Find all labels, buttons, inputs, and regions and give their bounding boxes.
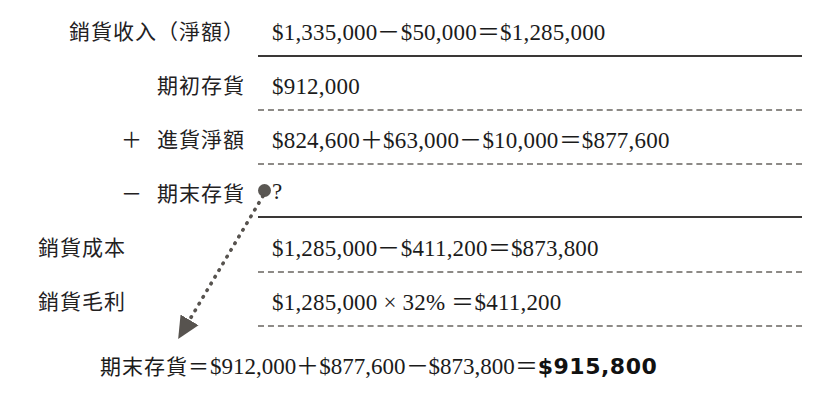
minus-operator-icon: － [121, 184, 143, 205]
summary-label: 期末存貨 [100, 355, 188, 379]
row-value-ending-inventory-unknown: ? [272, 180, 282, 203]
row-label-sales-revenue-net: 銷貨收入（淨額） [69, 22, 245, 43]
row-value-sales-revenue-net: $1,335,000－$50,000＝$1,285,000 [272, 21, 606, 44]
rule-below-gross-profit [258, 325, 802, 327]
row-value-net-purchases: $824,600＋$63,000－$10,000＝$877,600 [272, 129, 670, 152]
row-label-net-purchases: ＋進貨淨額 [121, 130, 245, 151]
row-label-beginning-inventory: 期初存貨 [157, 76, 245, 97]
row-label-text: 銷貨收入（淨額） [69, 20, 245, 44]
rule-below-sales-revenue [258, 55, 802, 57]
row-label-text: 期初存貨 [157, 74, 245, 98]
row-value-gross-profit: $1,285,000 × 32% ＝$411,200 [272, 291, 561, 314]
rule-below-cost-of-goods-sold [258, 271, 802, 273]
row-value-cost-of-goods-sold: $1,285,000－$411,200＝$873,800 [272, 237, 599, 260]
row-label-text: 進貨淨額 [157, 128, 245, 152]
row-label-text: 銷貨成本 [38, 236, 126, 260]
summary-answer-value: $915,800 [538, 354, 658, 379]
row-label-text: 銷貨毛利 [38, 290, 126, 314]
row-label-ending-inventory: －期末存貨 [121, 184, 245, 205]
rule-below-beginning-inventory [258, 109, 802, 111]
rule-below-net-purchases [258, 163, 802, 165]
row-label-text: 期末存貨 [157, 182, 245, 206]
row-value-beginning-inventory: $912,000 [272, 75, 360, 98]
plus-operator-icon: ＋ [121, 130, 143, 151]
summary-expression: $912,000＋$877,600－$873,800＝ [210, 354, 538, 379]
row-label-gross-profit: 銷貨毛利 [38, 292, 126, 313]
summary-equals-sign: ＝ [188, 355, 210, 379]
unknown-value-marker-dot [258, 184, 271, 197]
row-label-cost-of-goods-sold: 銷貨成本 [38, 238, 126, 259]
summary-equation: 期末存貨＝$912,000＋$877,600－$873,800＝$915,800 [100, 355, 657, 378]
rule-below-ending-inventory [258, 216, 802, 218]
cogs-worksheet: 銷貨收入（淨額） 期初存貨 ＋進貨淨額 －期末存貨 銷貨成本 銷貨毛利 $1,3… [0, 0, 829, 394]
